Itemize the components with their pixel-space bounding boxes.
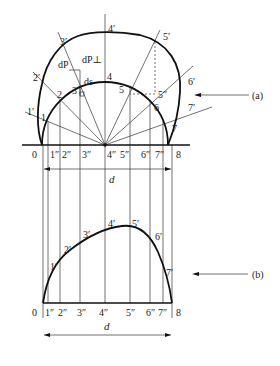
tick-1-a: 1″: [50, 149, 59, 160]
tick-4-b: 4″: [99, 307, 108, 318]
unrolled-pressure-curve: [43, 226, 172, 303]
tick-6-a: 6″: [141, 149, 150, 160]
curve-point-7: 7′: [166, 267, 173, 278]
outer-point-2: 2′: [33, 72, 40, 83]
inner-point-7: 7: [172, 123, 177, 134]
curve-point-3: 3′: [83, 229, 90, 240]
pointer-arrow-a-icon: [194, 93, 201, 97]
tick-2-b: 2″: [58, 307, 67, 318]
part-a-diagram: d 1 2 3 4 5 6 7 1′ 2′ 3′ 4′ 5′ 6′ 7′ dP …: [22, 14, 263, 318]
tick-2-a: 2″: [62, 149, 71, 160]
pressure-distribution-diagram: d 1 2 3 4 5 6 7 1′ 2′ 3′ 4′ 5′ 6′ 7′ dP …: [0, 0, 280, 366]
label-5-double-prime: 5″: [158, 89, 167, 100]
tick-6-b: 6″: [146, 307, 155, 318]
curve-point-1: 1′: [50, 261, 57, 272]
outer-point-6: 6′: [188, 76, 195, 87]
curve-point-6: 6′: [155, 231, 162, 242]
outer-point-1: 1′: [27, 106, 34, 117]
tick-5-a: 5″: [120, 149, 129, 160]
tick-8-b: 8: [176, 307, 181, 318]
inner-point-2: 2: [57, 89, 62, 100]
tick-7-b: 7″: [158, 307, 167, 318]
tick-8-a: 8: [176, 149, 181, 160]
part-b-diagram: d 1′ 2′ 3′ 4′ 5′ 6′ 7′ 0 1″ 2″ 3″ 4″ 5″ …: [32, 218, 264, 337]
part-b-label: (b): [252, 269, 264, 281]
tick-3-a: 3″: [82, 149, 91, 160]
inner-point-3: 3: [72, 85, 77, 96]
inner-point-1: 1: [41, 112, 46, 123]
tick-5-b: 5″: [126, 307, 135, 318]
label-ds: ds: [84, 76, 93, 87]
five-construction-dashed: [130, 42, 155, 94]
tick-0-b: 0: [32, 307, 37, 318]
inner-point-5: 5: [119, 84, 124, 95]
outer-point-5: 5′: [163, 31, 170, 42]
label-dP-perp: dP⊥: [82, 54, 102, 65]
inner-point-6: 6: [154, 102, 159, 113]
tick-3-b: 3″: [77, 307, 86, 318]
dim-arrow-left-a: [44, 167, 50, 171]
pointer-arrow-b-icon: [192, 272, 199, 276]
dimension-label-b: d: [104, 320, 110, 332]
dim-arrow-right-a: [165, 167, 171, 171]
curve-point-2: 2′: [64, 244, 71, 255]
label-dP: dP: [58, 59, 69, 70]
outer-point-4: 4′: [108, 23, 115, 34]
outer-point-7: 7′: [188, 102, 195, 113]
tick-0-a: 0: [32, 149, 37, 160]
tick-7-a: 7″: [155, 149, 164, 160]
dim-arrow-left-b: [44, 333, 50, 337]
center-point: [103, 143, 107, 147]
curve-point-5: 5′: [132, 218, 139, 229]
tick-4-a: 4″: [107, 149, 116, 160]
dim-arrow-right-b: [165, 333, 171, 337]
dimension-label-a: d: [109, 173, 115, 185]
curve-point-4: 4′: [108, 218, 115, 229]
outer-point-3: 3′: [60, 36, 67, 47]
part-a-label: (a): [252, 90, 263, 102]
tick-1-b: 1″: [45, 307, 54, 318]
inner-point-4: 4: [107, 71, 112, 82]
